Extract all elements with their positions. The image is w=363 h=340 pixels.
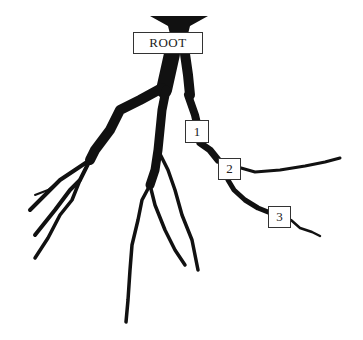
left-branch	[90, 88, 162, 160]
node-label-1: 1	[185, 120, 209, 143]
center-branch	[150, 90, 166, 185]
root-label: ROOT	[133, 32, 203, 54]
node-label-2: 2	[218, 158, 241, 180]
node-label-3: 3	[268, 206, 291, 228]
